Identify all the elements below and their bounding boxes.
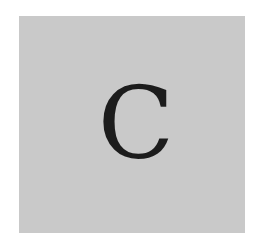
letter-glyph: C [19, 16, 245, 233]
letter-card: C [19, 16, 245, 233]
